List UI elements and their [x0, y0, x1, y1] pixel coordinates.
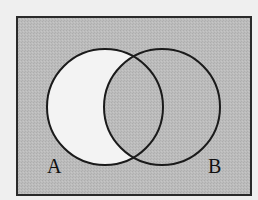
set-b-label: B: [208, 155, 221, 177]
venn-diagram-svg: A B: [0, 0, 258, 200]
venn-diagram: A B: [0, 0, 258, 200]
set-a-label: A: [47, 155, 62, 177]
